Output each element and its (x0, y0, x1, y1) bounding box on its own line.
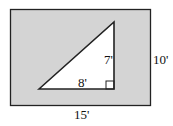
diagram: 7' 8' 10' 15' (0, 0, 173, 126)
triangle-base-label: 8' (78, 75, 87, 90)
triangle-height-label: 7' (104, 52, 113, 67)
rectangle-width-label: 15' (74, 107, 89, 122)
rectangle-height-label: 10' (153, 52, 168, 67)
